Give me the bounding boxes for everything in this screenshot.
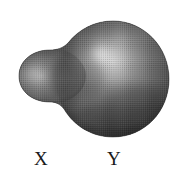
figure-container: X Y <box>0 0 189 180</box>
label-y: Y <box>107 149 121 168</box>
label-x: X <box>34 149 48 168</box>
two-lobe-blob-illustration <box>0 0 189 180</box>
